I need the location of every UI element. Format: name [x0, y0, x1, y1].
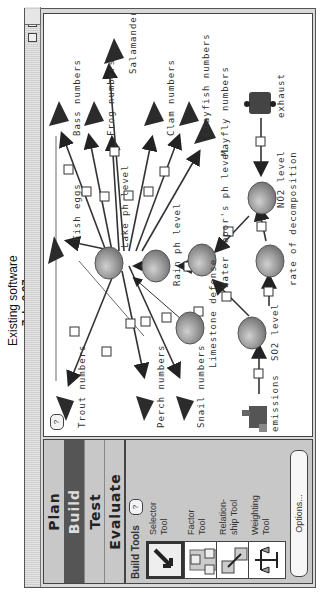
- node-lake-ph[interactable]: Lake ph level: [120, 165, 130, 248]
- factory-icon: [242, 406, 267, 432]
- tab-test[interactable]: Test: [84, 440, 105, 583]
- node-trout[interactable]: Trout numbers: [77, 345, 87, 428]
- resize-handle[interactable]: [25, 9, 41, 25]
- node-snail[interactable]: Snail numbers: [196, 345, 206, 428]
- caption-title: Existing software: [6, 255, 20, 346]
- selector-tool-label: SelectorTool: [148, 502, 170, 535]
- node-so2[interactable]: SO2 level: [270, 303, 280, 361]
- node-fish-eggs[interactable]: Fish eggs: [72, 183, 82, 241]
- node-no2[interactable]: NO2 level: [276, 150, 286, 208]
- node-crayfish[interactable]: Crayfish numbers: [201, 33, 211, 136]
- node-bass[interactable]: Bass numbers: [72, 59, 82, 136]
- control-panel: Plan Build Test Evaluate Build Tools ? S…: [43, 439, 313, 584]
- node-clam[interactable]: Clam numbers: [166, 59, 176, 136]
- collapse-box-icon[interactable]: [28, 33, 37, 42]
- title-bar[interactable]: [25, 7, 41, 587]
- scale-icon: [249, 542, 285, 578]
- model-canvas[interactable]: ?: [43, 13, 313, 437]
- tab-build[interactable]: Build: [64, 440, 84, 583]
- node-frog[interactable]: Frog numbers: [106, 59, 116, 136]
- tab-evaluate[interactable]: Evaluate: [104, 440, 125, 583]
- mode-tabs: Plan Build Test Evaluate: [44, 440, 126, 583]
- weighting-tool-label: WeightingTool: [250, 495, 272, 535]
- weighting-tool-button[interactable]: [248, 541, 286, 579]
- node-mayfly[interactable]: Mayfly numbers: [220, 66, 230, 156]
- app-window: Plan Build Test Evaluate Build Tools ? S…: [24, 8, 316, 588]
- node-decomposition[interactable]: rate of decomposition: [288, 151, 298, 286]
- node-perch[interactable]: Perch numbers: [156, 345, 166, 428]
- node-emissions[interactable]: emissions: [270, 374, 280, 432]
- node-salamander[interactable]: Salamander numbers: [128, 13, 138, 74]
- node-rain-ph[interactable]: Rain ph level: [172, 203, 182, 286]
- options-button[interactable]: Options...: [290, 450, 308, 577]
- car-icon: [244, 92, 276, 114]
- tab-plan[interactable]: Plan: [44, 440, 64, 583]
- node-water-vapor[interactable]: Water vapor's ph level: [220, 147, 230, 288]
- node-limestone[interactable]: Limestone defense: [208, 259, 218, 368]
- selector-tool-button[interactable]: [146, 541, 184, 579]
- node-exhaust[interactable]: exhaust: [276, 73, 286, 118]
- relationship-tool-label: Relation-ship Tool: [218, 499, 240, 535]
- window-frame: Plan Build Test Evaluate Build Tools ? S…: [24, 8, 316, 588]
- factor-tool-label: FactorTool: [186, 509, 208, 535]
- arrow-icon: [149, 544, 181, 576]
- build-tools-help-button[interactable]: ?: [129, 499, 143, 515]
- build-tools-header: Build Tools: [130, 525, 141, 579]
- lake-ph-globe: [95, 247, 123, 279]
